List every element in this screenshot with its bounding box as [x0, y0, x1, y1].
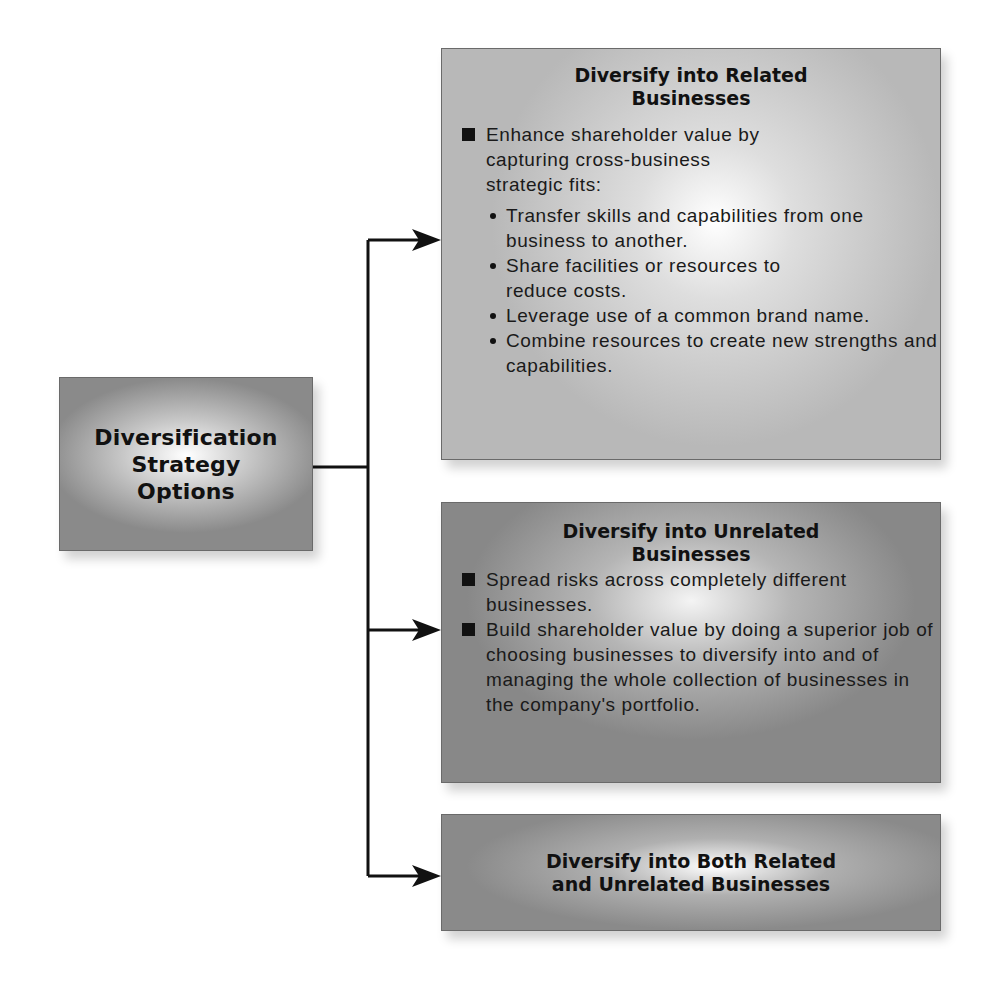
bullet-item: Enhance shareholder value by capturing c… — [462, 122, 940, 378]
option-title: Diversify into Both Related and Unrelate… — [546, 850, 836, 896]
option-title: Diversify into Related Businesses — [442, 64, 940, 110]
option-unrelated-businesses: Diversify into Unrelated Businesses Spre… — [441, 502, 941, 783]
bullet-list: Enhance shareholder value by capturing c… — [442, 122, 940, 378]
sub-bullet-item: Transfer skills and capabilities from on… — [486, 203, 940, 253]
root-node-diversification-strategy-options: Diversification Strategy Options — [59, 377, 313, 551]
option-both-related-and-unrelated: Diversify into Both Related and Unrelate… — [441, 814, 941, 931]
option-title: Diversify into Unrelated Businesses — [442, 520, 940, 566]
option-related-businesses: Diversify into Related Businesses Enhanc… — [441, 48, 941, 460]
root-title: Diversification Strategy Options — [94, 424, 277, 505]
bullet-list: Spread risks across completely different… — [442, 567, 940, 717]
bullet-item: Spread risks across completely different… — [462, 567, 866, 617]
sub-bullet-item: Share facilities or resources to reduce … — [486, 253, 836, 303]
sub-bullet-item: Leverage use of a common brand name. — [486, 303, 876, 328]
bullet-item: Build shareholder value by doing a super… — [462, 617, 940, 717]
sub-bullet-list: Transfer skills and capabilities from on… — [486, 203, 940, 378]
sub-bullet-item: Combine resources to create new strength… — [486, 328, 940, 378]
